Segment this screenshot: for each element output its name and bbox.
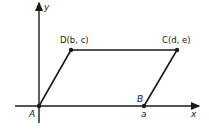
- vertex-b-label: B: [137, 94, 143, 104]
- vertex-d-label: D(b, c): [60, 35, 89, 45]
- x-axis-label: x: [190, 109, 197, 119]
- vertex-a-label: A: [28, 109, 35, 119]
- vertex-c-label: C(d, e): [162, 35, 191, 45]
- vertex-c-dot: [175, 48, 179, 52]
- parallelogram-diagram: y x A B a D(b, c) C(d, e): [0, 0, 209, 138]
- vertex-a-dot: [37, 104, 41, 108]
- vertex-b-coord-a: a: [141, 109, 147, 119]
- parallelogram-outline: [39, 50, 177, 106]
- vertex-b-dot: [142, 104, 146, 108]
- y-axis-label: y: [43, 2, 50, 12]
- vertex-d-dot: [69, 48, 73, 52]
